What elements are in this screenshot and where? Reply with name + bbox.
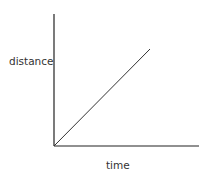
y-axis-label: distance: [9, 55, 54, 67]
data-line: [54, 49, 150, 146]
distance-time-chart: [0, 0, 210, 179]
x-axis-label: time: [106, 159, 130, 171]
